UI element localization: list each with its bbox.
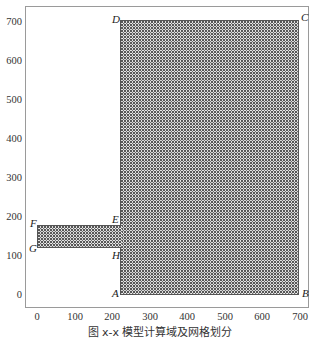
x-tick-100: 100 — [60, 312, 90, 323]
x-tick-400: 400 — [172, 312, 202, 323]
point-label-b: B — [302, 288, 309, 299]
y-tick-500: 500 — [2, 95, 22, 106]
x-tick-200: 200 — [97, 312, 127, 323]
y-tick-600: 600 — [2, 56, 22, 67]
x-tick-700: 700 — [285, 312, 315, 323]
main-domain-mesh — [120, 20, 299, 295]
x-tick-0: 0 — [22, 312, 52, 323]
y-tick-400: 400 — [2, 134, 22, 145]
x-tick-500: 500 — [210, 312, 240, 323]
x-tick-300: 300 — [135, 312, 165, 323]
y-tick-0: 0 — [2, 290, 22, 301]
x-tick-600: 600 — [247, 312, 277, 323]
inlet-channel-mesh — [37, 225, 122, 248]
y-tick-200: 200 — [2, 212, 22, 223]
y-tick-700: 700 — [2, 17, 22, 28]
y-tick-300: 300 — [2, 173, 22, 184]
point-label-a: A — [112, 288, 119, 299]
point-label-d: D — [112, 14, 120, 25]
figure-caption: 图 x-x 模型计算域及网格划分 — [0, 327, 320, 338]
point-label-f: F — [30, 218, 37, 229]
point-label-e: E — [112, 214, 119, 225]
y-tick-100: 100 — [2, 251, 22, 262]
point-label-c: C — [301, 12, 308, 23]
point-label-h: H — [112, 250, 120, 261]
point-label-g: G — [29, 243, 37, 254]
